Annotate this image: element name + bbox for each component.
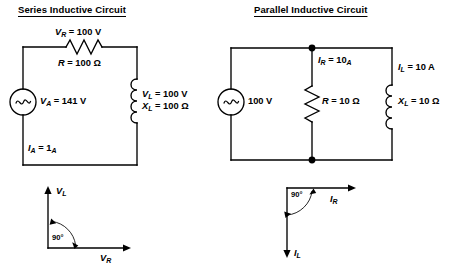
parallel-branch-current-label: IR = 10A (318, 55, 352, 66)
series-source-voltage-label: VA = 141 V (40, 96, 86, 107)
parallel-junction-dot-bottom (309, 157, 316, 164)
series-resistor-voltage-label: VR = 100 V (55, 27, 101, 38)
parallel-phasor-vertical-arrowhead (283, 250, 290, 258)
parallel-phasor-angle-label: 90° (291, 190, 302, 199)
parallel-phasor-horizontal-sub: R (333, 198, 338, 205)
series-inductor-symbol (131, 79, 137, 123)
parallel-resistance-value: = 10 Ω (331, 96, 359, 106)
parallel-inductor-current-value: = 10 A (407, 62, 434, 72)
series-phasor-vertical-sub: L (62, 190, 66, 197)
parallel-phasor-arc-arrowhead-top (309, 189, 316, 195)
series-current-sub: A (31, 147, 36, 154)
series-current-label: IA = 1A (28, 143, 57, 154)
series-resistance-var: R (58, 58, 65, 68)
series-reactance-value: = 100 Ω (155, 101, 189, 111)
series-phasor-horizontal-label: VR (100, 253, 111, 264)
series-reactance-sub: L (148, 105, 152, 112)
parallel-reactance-value: = 10 Ω (411, 96, 439, 106)
series-resistor-voltage-value: = 100 V (69, 27, 101, 37)
series-reactance-label: XL = 100 Ω (142, 101, 189, 112)
series-circuit-title: Series Inductive Circuit (18, 4, 126, 15)
parallel-branch-current-sub: R (321, 59, 326, 66)
parallel-phasor-horizontal-arrowhead (348, 184, 356, 191)
series-phasor-horizontal-arrowhead (123, 244, 131, 251)
series-inductor-voltage-sub: L (148, 93, 152, 100)
parallel-phasor-vertical-sub: L (297, 252, 301, 259)
parallel-junction-dot-top (309, 45, 316, 52)
circuit-vector-layer (0, 0, 456, 272)
parallel-ac-source-sine-icon (224, 100, 239, 104)
parallel-reactance-label: XL = 10 Ω (398, 96, 439, 107)
parallel-phasor-vertical-label: IL (294, 248, 301, 259)
parallel-branch-current-value: = 10 (328, 55, 346, 65)
series-current-value: = 1 (38, 143, 51, 153)
series-resistance-label: R = 100 Ω (58, 58, 101, 69)
series-phasor-angle-label: 90° (52, 233, 63, 242)
series-phasor-vertical-arrowhead (44, 186, 51, 194)
series-inductor-voltage-value: = 100 V (155, 89, 187, 99)
parallel-resistance-var: R (322, 96, 329, 106)
series-current-value-sub: A (51, 147, 56, 154)
circuit-diagram-canvas: Series Inductive Circuit Parallel Induct… (0, 0, 456, 272)
parallel-branch-current-value-sub: A (347, 59, 352, 66)
parallel-circuit-title: Parallel Inductive Circuit (254, 4, 367, 15)
parallel-inductor-current-label: IL = 10 A (398, 62, 435, 73)
series-inductor-voltage-label: VL = 100 V (142, 89, 187, 100)
parallel-source-voltage-label: 100 V (248, 96, 272, 107)
series-resistor-voltage-sub: R (61, 31, 66, 38)
series-resistance-value: = 100 Ω (67, 58, 101, 68)
series-phasor-horizontal-sub: R (106, 257, 111, 264)
parallel-resistance-label: R = 10 Ω (322, 96, 360, 107)
parallel-inductor-current-sub: L (401, 66, 405, 73)
parallel-resistor-symbol (305, 86, 319, 122)
parallel-reactance-sub: L (404, 100, 408, 107)
series-source-voltage-sub: A (46, 100, 51, 107)
series-source-voltage-value: = 141 V (54, 96, 86, 106)
series-ac-source-sine-icon (16, 100, 31, 104)
series-phasor-vertical-label: VL (56, 186, 66, 197)
series-resistor-symbol (66, 40, 102, 54)
parallel-inductor-symbol (386, 85, 392, 129)
parallel-phasor-horizontal-label: IR (330, 194, 338, 205)
